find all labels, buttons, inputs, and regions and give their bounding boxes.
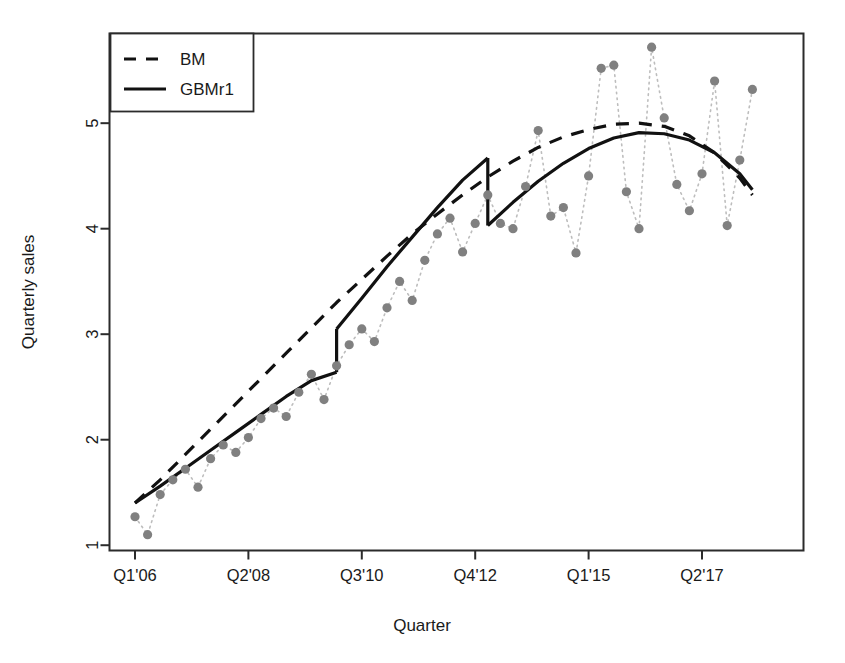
- legend-label-bm: BM: [180, 50, 206, 69]
- svg-text:2: 2: [83, 435, 101, 444]
- chart-figure: 12345 Q1'06Q2'08Q3'10Q4'12Q1'15Q2'17 Qua…: [0, 0, 845, 663]
- legend-label-gbmr1: GBMr1: [180, 80, 234, 99]
- chart-svg: 12345 Q1'06Q2'08Q3'10Q4'12Q1'15Q2'17 Qua…: [0, 0, 845, 663]
- chart-legend: BM GBMr1: [111, 34, 254, 112]
- svg-text:Q2'08: Q2'08: [227, 566, 271, 584]
- legend-box: [111, 34, 254, 112]
- svg-text:Q3'10: Q3'10: [340, 566, 384, 584]
- x-axis-title: Quarter: [393, 616, 451, 635]
- svg-text:4: 4: [83, 224, 101, 233]
- svg-text:Q4'12: Q4'12: [453, 566, 497, 584]
- svg-text:Q1'06: Q1'06: [113, 566, 157, 584]
- svg-text:Q2'17: Q2'17: [680, 566, 724, 584]
- y-axis-title: Quarterly sales: [19, 235, 38, 349]
- svg-text:3: 3: [83, 330, 101, 339]
- svg-text:5: 5: [83, 119, 101, 128]
- svg-text:Q1'15: Q1'15: [567, 566, 611, 584]
- svg-text:1: 1: [83, 541, 101, 550]
